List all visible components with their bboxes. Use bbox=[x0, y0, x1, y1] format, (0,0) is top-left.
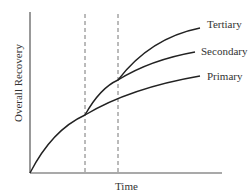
y-axis-label: Overall Recovery bbox=[12, 44, 24, 122]
label-tertiary: Tertiary bbox=[207, 18, 242, 30]
x-axis-label: Time bbox=[115, 180, 138, 192]
primary-curve bbox=[30, 76, 200, 173]
recovery-diagram: Tertiary Secondary Primary Time Overall … bbox=[0, 0, 252, 196]
label-secondary: Secondary bbox=[201, 45, 248, 57]
label-primary: Primary bbox=[207, 70, 243, 82]
